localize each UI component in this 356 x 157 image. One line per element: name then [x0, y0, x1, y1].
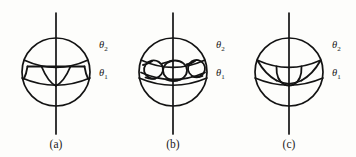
panel-b-loop-center: [163, 61, 187, 81]
figure-container: θ2 θ1 (a) θ2: [0, 0, 356, 157]
panel-b-theta1-label: θ1: [216, 67, 225, 81]
panel-b: θ2 θ1 (b): [139, 13, 225, 151]
panel-a-theta2-label: θ2: [99, 39, 108, 53]
panel-a-inner-cusp-right: [56, 67, 71, 86]
panel-c-scallop-right-join: [289, 81, 302, 84]
panel-c-scallop-left-join: [277, 81, 290, 84]
panel-c: θ2 θ1 (c): [255, 13, 341, 151]
panel-a-inner-cusp-left: [42, 67, 56, 86]
panel-a-inner-left-leg: [24, 67, 28, 80]
sphere-diagram-svg: θ2 θ1 (a) θ2: [0, 0, 356, 157]
panel-a-theta1-label: θ1: [99, 67, 108, 81]
panel-a-caption: (a): [50, 138, 63, 151]
panel-b-strand-mid-top: [162, 61, 172, 64]
panel-b-caption: (b): [166, 138, 180, 151]
panel-c-theta2-label: θ2: [332, 39, 341, 53]
panel-a-inner-right-leg: [85, 67, 89, 80]
panel-b-theta2-label: θ2: [216, 39, 225, 53]
panel-c-caption: (c): [283, 138, 296, 151]
panel-a: θ2 θ1 (a): [22, 13, 108, 151]
panel-c-theta1-label: θ1: [332, 67, 341, 81]
